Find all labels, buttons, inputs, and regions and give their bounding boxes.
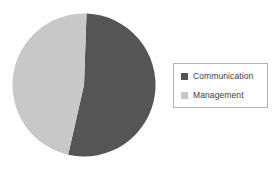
pie-svg xyxy=(12,13,156,157)
pie-slices xyxy=(12,13,155,156)
chart-legend: Communication Management xyxy=(173,63,268,108)
pie-chart-figure: Communication Management xyxy=(0,0,278,171)
legend-label-communication: Communication xyxy=(193,71,253,81)
legend-item-management[interactable]: Management xyxy=(181,86,267,105)
pie-chart-graphic xyxy=(12,13,156,157)
legend-swatch-icon-management xyxy=(181,92,188,99)
legend-label-management: Management xyxy=(193,90,244,100)
legend-item-communication[interactable]: Communication xyxy=(181,67,267,86)
legend-swatch-icon-communication xyxy=(181,73,188,80)
